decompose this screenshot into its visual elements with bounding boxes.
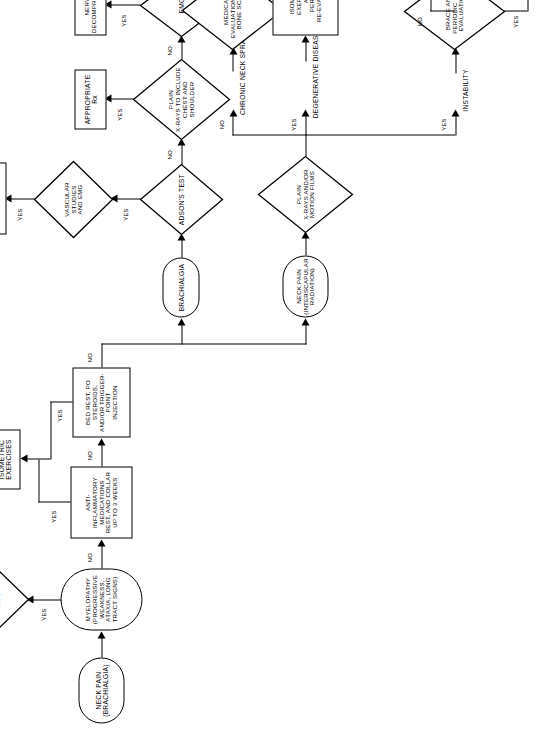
node-isometric-periodic: ISOMETRICEXERCISESANDPERIODICRE-EVALUATI… [272,0,338,35]
edge-label-antiinflam-yes: YES [50,507,56,525]
edge-neckpain-to-myelopathy [101,637,102,657]
arrowhead [229,109,237,116]
node-label: MYELOPATHY(PROGRESSIVE WEAKNESS,ATAXIA, … [84,569,118,629]
edge-brace-yes-v [503,10,527,11]
edge-to-neckpain-interscapular [305,324,306,344]
node-isometric-exercises: ISOMETRICEXERCISES [0,429,20,489]
node-label: NECK PAIN(BRACHIALGIA) [94,660,109,721]
diamond-shape [34,161,112,237]
edge-antiinflam-no [101,444,102,466]
node-label: NECK PAIN(INTERSCAPULARRADIATION) [295,254,315,319]
node-label: BRACHIALGIA [177,259,184,315]
node-appropriate-rx-tos: APPROPRIATE RxFOR THORACICOUTLET SYNDROM… [0,162,6,234]
edge-films-bus-up [232,134,305,135]
edge-label-bedrest-no: NO [86,348,92,366]
edge-label-vascular-yes: YES [16,205,22,223]
arrowhead [97,539,105,546]
edge-label-adsons-yes: YES [122,205,128,223]
node-medical-eval-bone-scan: MEDICALEVALUATION ANDBONE SCAN [182,0,282,49]
diamond-shape [258,156,352,232]
edge-adsons-no [181,144,182,164]
arrowhead [20,454,27,462]
edge-bedrest-no [101,343,102,367]
edge-brace-yes-h [527,0,528,11]
node-plain-xrays-motion: PLAINX-RAYS AND/ORMOTION FILMS [258,156,352,232]
node-nerve-decompression: NERVEDECOMPRESSION [74,0,106,35]
edge-antiinflam-yes-v [38,501,70,502]
edge-films-no [232,115,233,135]
edge-label-films-yes-instability: YES [440,115,446,133]
edge-brace-no-v [430,10,455,11]
node-label: NERVEDECOMPRESSION [82,0,98,35]
node-brachialgia: BRACHIALGIA [162,257,199,317]
node-plain-xrays-chest: PLAINX-RAYS TO INCLUDECHEST ANDSHOULDER [133,59,229,139]
node-label: BED REST, PO STEROIDS,AND/OR TRIGGER-POI… [83,368,119,436]
edge-bedrest-no-split [101,343,306,344]
edge-to-brachialgia [181,324,182,344]
edge-brachialgia-to-adsons [181,239,182,257]
node-myelopathy: MYELOPATHY(PROGRESSIVE WEAKNESS,ATAXIA, … [60,568,142,630]
diamond-shape [182,0,282,49]
arrowhead [301,109,309,116]
edge-neckpain2-to-films [305,237,306,255]
diamond-shape [140,164,222,234]
edge-label-xrays-no: NO [166,41,172,59]
edge-label-emg-yes: YES [120,11,126,29]
edge-instability-to-brace [455,53,456,73]
node-bed-rest: BED REST, PO STEROIDS,AND/OR TRIGGER-POI… [72,367,130,437]
edge-degen-to-isometric [305,41,306,61]
edge-label-myelopathy-yes: YES [40,604,46,624]
node-neck-pain-interscapular: NECK PAIN(INTERSCAPULARRADIATION) [282,255,328,317]
edge-bedrest-yes-v [50,401,72,402]
edge-label-films-no: NO [218,115,224,133]
arrowhead [451,109,459,116]
arrowhead [97,631,105,638]
edge-films-yes-instability [455,115,456,135]
node-adsons-test: ADSON'S TEST [140,164,222,234]
label-degenerative-disease: DEGENERATIVE DISEASE [311,19,318,129]
edge-label-antiinflam-no: NO [86,446,92,464]
node-vascular-studies: VASCULARSTUDIESAND EMG [34,161,112,237]
node-label: ISOMETRICEXERCISES [0,437,12,481]
edge-label-adsons-no: NO [166,145,172,163]
edge-films-yes-degen [305,115,306,135]
node-neck-pain-brachialgia: NECK PAIN(BRACHIALGIA) [78,657,124,723]
edge-films-bus [305,134,455,135]
edge-films-out [305,134,306,156]
edge-label-myelopathy-no: NO [86,548,92,566]
flowchart-canvas: NECK PAIN(BRACHIALGIA) MYELOPATHY(PROGRE… [0,0,541,737]
edge-label-brace-no: NO [416,12,422,30]
node-label: APPROPRIATERx [82,72,99,126]
node-myelogram-mri-1: MYELOGRAM/MRI [0,565,28,633]
node-label: ANTI-INFLAMMATORYMEDICATIONSREST, AND CO… [83,467,119,537]
arrowhead [301,35,309,42]
arrowhead [301,318,309,325]
node-label: ISOMETRICEXERCISESANDPERIODICRE-EVALUATI… [287,0,323,24]
edge-bedrest-yes-h [50,401,51,459]
edge-label-bedrest-yes: YES [56,406,62,424]
diamond-shape [0,565,28,633]
edge-sprain-to-medical [232,53,233,71]
edge-myelopathy-no [101,545,102,568]
edge-label-films-yes-degen: YES [290,115,296,133]
edge-label-brace-yes: YES [512,12,518,30]
edge-brace-no-h [430,0,431,11]
label-instability: INSTABILITY [461,57,468,123]
arrowhead [97,438,105,445]
node-anti-inflammatory: ANTI-INFLAMMATORYMEDICATIONSREST, AND CO… [70,466,132,538]
edge-label-xrays-yes: YES [116,105,122,123]
arrowhead [177,318,185,325]
diamond-shape [133,59,229,139]
node-appropriate-rx-1: APPROPRIATERx [74,69,106,129]
edge-antiinflam-yes-h [38,459,39,502]
